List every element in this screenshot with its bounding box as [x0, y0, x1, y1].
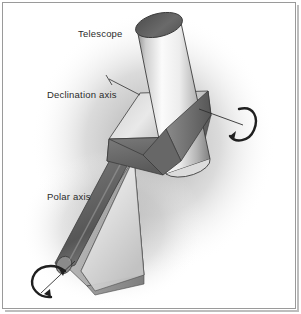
telescope-mount-illustration [3, 3, 295, 308]
label-polar-axis: Polar axis [47, 192, 91, 202]
label-telescope: Telescope [78, 29, 123, 39]
label-declination-axis: Declination axis [47, 90, 117, 100]
figure-root: Telescope Declination axis Polar axis [0, 0, 301, 314]
frame-shadow-bottom [5, 310, 299, 312]
frame-shadow-right [297, 5, 299, 311]
